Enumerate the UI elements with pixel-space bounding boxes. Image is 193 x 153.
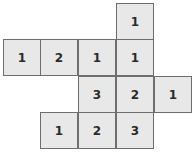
grid-cell-r1-c3: 1 xyxy=(116,39,154,76)
grid-cell-r2-c4: 1 xyxy=(154,76,192,113)
grid-cell-r2-c3: 2 xyxy=(116,76,154,113)
grid-cell-r1-c2: 1 xyxy=(78,39,116,76)
grid-cell-r0-c3: 1 xyxy=(116,3,154,40)
grid-cell-r3-c2: 2 xyxy=(78,112,116,149)
grid-cell-r1-c1: 2 xyxy=(40,39,78,76)
number-grid-diagram: 1 1 2 1 1 3 2 1 1 2 3 xyxy=(0,0,193,153)
grid-cell-r3-c3: 3 xyxy=(116,112,154,149)
grid-cell-r3-c1: 1 xyxy=(40,112,78,149)
grid-cell-r1-c0: 1 xyxy=(3,39,41,76)
grid-cell-r2-c2: 3 xyxy=(78,76,116,113)
